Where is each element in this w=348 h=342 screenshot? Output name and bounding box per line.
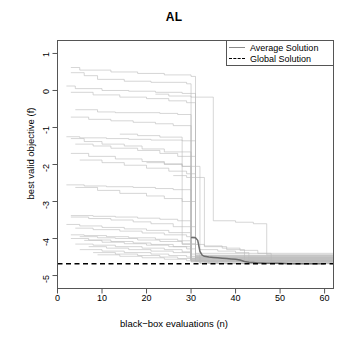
y-tick-label-2: -1 <box>41 126 51 148</box>
legend-entry-average-solution: Average Solution <box>228 42 318 53</box>
run-trajectory-3 <box>71 92 334 257</box>
x-tick-label-6: 60 <box>313 293 337 303</box>
run-trajectory-29 <box>120 134 334 260</box>
y-tick-label-4: -3 <box>41 201 51 223</box>
run-trajectory-27 <box>147 163 334 263</box>
run-trajectory-7 <box>71 139 334 262</box>
x-tick-label-4: 40 <box>224 293 248 303</box>
y-tick-label-5: -4 <box>41 238 51 260</box>
y-tick-label-3: -2 <box>41 164 51 186</box>
x-tick-label-3: 30 <box>179 293 203 303</box>
legend-label-global-solution: Global Solution <box>246 54 311 64</box>
x-tick-label-1: 10 <box>90 293 114 303</box>
chart-legend: Average Solution Global Solution <box>228 42 333 64</box>
legend-label-average-solution: Average Solution <box>246 43 318 53</box>
y-tick-label-0: 1 <box>41 52 51 74</box>
chart-figure: AL black−box evaluations (n) best valid … <box>0 0 348 342</box>
legend-key-dashed-line-icon <box>228 54 246 64</box>
run-trajectory-9 <box>71 153 334 258</box>
y-axis-title: best valid objective (f) <box>25 64 36 244</box>
x-axis-title: black−box evaluations (n) <box>0 318 348 329</box>
run-trajectory-28 <box>173 176 333 263</box>
run-trajectories <box>66 68 333 264</box>
y-tick-label-1: 0 <box>41 89 51 111</box>
run-trajectory-1 <box>71 73 334 259</box>
x-tick-label-2: 20 <box>135 293 159 303</box>
legend-key-solid-line-icon <box>228 43 246 53</box>
y-tick-label-6: -5 <box>41 275 51 297</box>
x-tick-label-5: 50 <box>268 293 292 303</box>
legend-entry-global-solution: Global Solution <box>228 53 311 64</box>
